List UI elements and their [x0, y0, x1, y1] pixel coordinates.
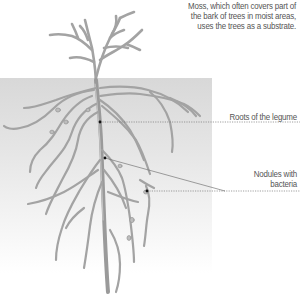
roots-label: Roots of the legume	[191, 112, 297, 122]
moss-caption-line-1: Moss, which often covers part of	[120, 1, 296, 11]
nodules-label: Nodules with bacteria	[191, 169, 297, 189]
nodules-label-line-1: Nodules with	[191, 169, 297, 179]
roots-pointer-dot	[99, 121, 102, 124]
moss-caption: Moss, which often covers part of the bar…	[120, 1, 296, 31]
legume-root-illustration	[0, 0, 302, 295]
moss-caption-line-2: the bark of trees in moist areas,	[120, 11, 296, 21]
nodule-pointer-dot-2	[146, 190, 149, 193]
moss-caption-line-3: uses the trees as a substrate.	[120, 21, 296, 31]
nodule-pointer-dot-1	[104, 157, 107, 160]
nodules-label-line-2: bacteria	[191, 179, 297, 189]
